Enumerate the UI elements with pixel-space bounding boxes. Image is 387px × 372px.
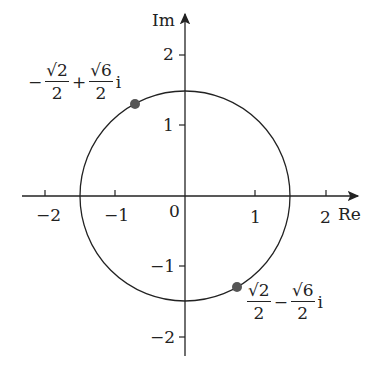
imag-unit: i [116, 72, 121, 92]
fraction-re: √22 [45, 60, 69, 103]
x-axis-label: Re [338, 206, 361, 223]
y-tick-neg2: −2 [150, 329, 175, 346]
plot-svg [0, 0, 387, 372]
y-tick-1: 1 [163, 117, 174, 134]
x-tick-neg1: −1 [104, 207, 129, 224]
fraction-im: √62 [89, 60, 113, 103]
y-tick-2: 2 [163, 46, 174, 63]
y-axis-label: Im [152, 12, 175, 29]
point-label-upper-left: − √22 + √62 i [28, 60, 121, 103]
operator: + [72, 72, 86, 92]
point-label-lower-right: √22 − √62 i [247, 280, 323, 323]
x-tick-2: 2 [320, 209, 331, 226]
origin-label: 0 [169, 203, 180, 220]
x-tick-neg2: −2 [36, 207, 61, 224]
complex-plane-diagram: −2 −1 0 1 2 Re Im 2 1 −1 −2 − √22 + √62 … [0, 0, 387, 372]
fraction-re: √22 [247, 280, 271, 323]
point-lower-right [232, 282, 242, 292]
imag-unit: i [318, 292, 323, 312]
x-tick-1: 1 [250, 209, 261, 226]
point-upper-left [130, 99, 140, 109]
fraction-im: √62 [291, 280, 315, 323]
y-tick-neg1: −1 [150, 258, 175, 275]
sign: − [28, 72, 42, 92]
operator: − [274, 292, 288, 312]
